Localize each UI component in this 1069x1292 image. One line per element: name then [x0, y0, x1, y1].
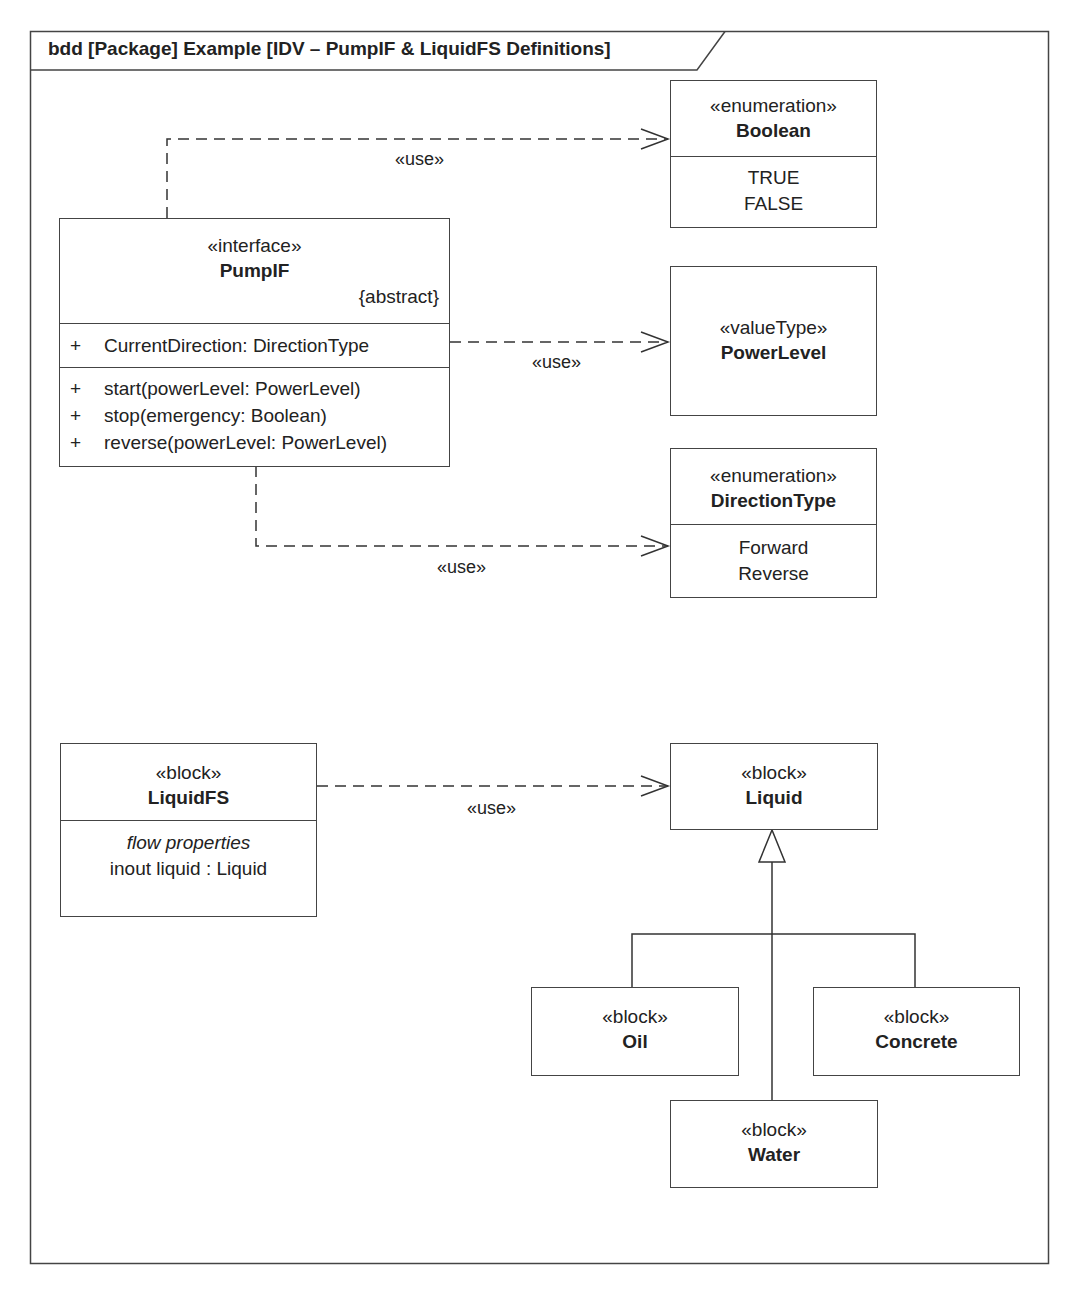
- enum-literal: Forward: [671, 535, 876, 561]
- pumpif-properties-compartment: + CurrentDirection: DirectionType: [60, 323, 449, 367]
- liquidfs-block[interactable]: «block» LiquidFS flow properties inout l…: [60, 743, 317, 917]
- use-dependency-directiontype[interactable]: [256, 466, 668, 556]
- generalization-arrowhead-icon: [759, 830, 785, 862]
- visibility-public: +: [70, 429, 81, 456]
- use-dependency-powerlevel[interactable]: [450, 332, 668, 352]
- liquid-stereotype: «block»: [671, 760, 877, 785]
- pumpif-operations-compartment: + start(powerLevel: PowerLevel) + stop(e…: [60, 367, 449, 465]
- enum-literal: FALSE: [671, 191, 876, 217]
- diagram-title: bdd [Package] Example [IDV – PumpIF & Li…: [48, 38, 611, 60]
- enum-literal: Reverse: [671, 561, 876, 587]
- liquid-block[interactable]: «block» Liquid: [670, 743, 878, 830]
- water-block[interactable]: «block» Water: [670, 1100, 878, 1188]
- powerlevel-name: PowerLevel: [671, 340, 876, 366]
- operation-signature: stop(emergency: Boolean): [104, 402, 327, 429]
- pumpif-stereotype: «interface»: [60, 233, 449, 258]
- diagram-frame: [31, 32, 1049, 1264]
- pumpif-interface-block[interactable]: «interface» PumpIF {abstract} + CurrentD…: [59, 218, 450, 467]
- directiontype-stereotype: «enumeration»: [671, 463, 876, 488]
- oil-block[interactable]: «block» Oil: [531, 987, 739, 1076]
- boolean-literals-compartment: TRUE FALSE: [671, 156, 876, 217]
- property-signature: CurrentDirection: DirectionType: [104, 332, 369, 359]
- oil-name: Oil: [532, 1029, 738, 1055]
- use-dependency-liquid[interactable]: [317, 776, 668, 796]
- visibility-public: +: [70, 375, 81, 402]
- pumpif-name: PumpIF: [60, 258, 449, 284]
- oil-stereotype: «block»: [532, 1004, 738, 1029]
- powerlevel-stereotype: «valueType»: [671, 315, 876, 340]
- boolean-enumeration-block[interactable]: «enumeration» Boolean TRUE FALSE: [670, 80, 877, 228]
- powerlevel-valuetype-block[interactable]: «valueType» PowerLevel: [670, 266, 877, 416]
- operation-signature: start(powerLevel: PowerLevel): [104, 375, 361, 402]
- boolean-name: Boolean: [671, 118, 876, 144]
- water-name: Water: [671, 1142, 877, 1168]
- liquidfs-flow-properties-compartment: flow properties inout liquid : Liquid: [61, 820, 316, 882]
- concrete-block[interactable]: «block» Concrete: [813, 987, 1020, 1076]
- use-dependency-boolean[interactable]: [167, 129, 668, 218]
- operation-signature: reverse(powerLevel: PowerLevel): [104, 429, 387, 456]
- visibility-public: +: [70, 332, 81, 359]
- use-label-boolean: «use»: [395, 149, 444, 170]
- liquid-name: Liquid: [671, 785, 877, 811]
- water-stereotype: «block»: [671, 1117, 877, 1142]
- use-label-powerlevel: «use»: [532, 352, 581, 373]
- directiontype-enumeration-block[interactable]: «enumeration» DirectionType Forward Reve…: [670, 448, 877, 598]
- liquidfs-stereotype: «block»: [61, 760, 316, 785]
- boolean-stereotype: «enumeration»: [671, 93, 876, 118]
- use-label-liquid: «use»: [467, 798, 516, 819]
- directiontype-literals-compartment: Forward Reverse: [671, 524, 876, 587]
- concrete-name: Concrete: [814, 1029, 1019, 1055]
- concrete-stereotype: «block»: [814, 1004, 1019, 1029]
- diagram-canvas: [0, 0, 1069, 1292]
- liquidfs-name: LiquidFS: [61, 785, 316, 811]
- directiontype-name: DirectionType: [671, 488, 876, 514]
- enum-literal: TRUE: [671, 165, 876, 191]
- flow-property[interactable]: inout liquid : Liquid: [61, 856, 316, 882]
- compartment-title: flow properties: [61, 830, 316, 856]
- pumpif-abstract-constraint: {abstract}: [359, 286, 439, 308]
- visibility-public: +: [70, 402, 81, 429]
- use-label-directiontype: «use»: [437, 557, 486, 578]
